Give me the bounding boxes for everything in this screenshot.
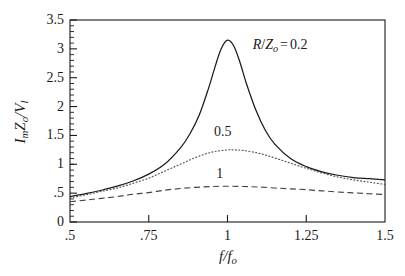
y-tick-label: 3.5	[22, 12, 64, 28]
y-tick-label: .5	[22, 185, 64, 201]
x-tick-label: 1.5	[376, 228, 394, 244]
y-tick-label: 0	[22, 214, 64, 230]
y-tick-label: 1	[22, 156, 64, 172]
x-tick-label: .75	[140, 228, 158, 244]
curve-label-damping-1: 1	[216, 166, 223, 182]
resonance-chart-figure: 0.511.522.533.5 .5.7511.251.5 f/fo ImZo/…	[0, 0, 405, 276]
y-tick-label: 3	[22, 41, 64, 57]
curve-label-damping-0-5: 0.5	[214, 124, 232, 140]
x-tick-label: 1	[224, 228, 231, 244]
curve-label-damping-0-2: R/Zo=0.2	[253, 37, 308, 54]
x-tick-label: .5	[65, 228, 76, 244]
y-axis-title-i: I	[12, 138, 28, 143]
curve-label-r: R	[253, 37, 262, 52]
y-axis-title-v-sub: l	[18, 101, 30, 104]
x-axis-title: f/fo	[219, 248, 237, 266]
y-axis-title-z-sub: o	[18, 117, 30, 122]
y-tick-label: 2.5	[22, 70, 64, 86]
y-axis-title-z: Z	[12, 122, 28, 130]
curve-label-z: Z	[265, 37, 273, 52]
curve-label-value: 0.2	[290, 37, 308, 52]
x-axis-title-denominator-sub: o	[232, 254, 237, 266]
x-tick-label: 1.25	[294, 228, 319, 244]
curve-label-equals: =	[278, 37, 290, 52]
plot-frame	[70, 20, 385, 222]
y-axis-title: ImZo/Vl	[12, 101, 30, 144]
y-axis-title-i-sub: m	[18, 131, 30, 139]
y-axis-title-v: V	[12, 104, 28, 113]
y-axis-title-slash: /	[12, 113, 28, 117]
